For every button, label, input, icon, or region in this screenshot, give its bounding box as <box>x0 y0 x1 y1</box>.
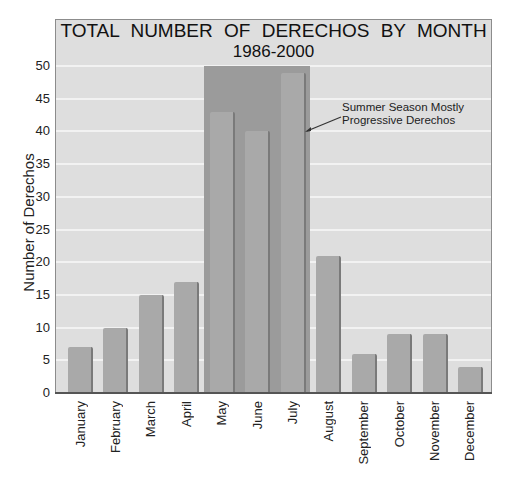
y-tick-label: 50 <box>20 58 50 73</box>
bar-february <box>103 328 128 393</box>
annotation-arrow-icon <box>305 115 345 135</box>
x-tick-label-july: July <box>285 401 300 424</box>
bar-march <box>139 295 164 393</box>
x-tick-label-june: June <box>250 401 265 429</box>
bar-september <box>352 354 377 393</box>
bar-july <box>281 73 306 393</box>
x-tick-label-january: January <box>73 401 88 447</box>
bar-december <box>458 367 483 393</box>
bar-august <box>316 256 341 393</box>
bar-may <box>210 112 235 393</box>
bar-october <box>387 334 412 393</box>
x-tick-label-august: August <box>321 401 336 441</box>
y-tick-label: 10 <box>20 320 50 335</box>
x-tick-label-october: October <box>392 401 407 447</box>
bar-june <box>245 131 270 393</box>
x-tick-label-april: April <box>179 401 194 427</box>
y-tick-label: 5 <box>20 352 50 367</box>
y-tick-label: 45 <box>20 91 50 106</box>
y-tick-label: 40 <box>20 123 50 138</box>
y-tick-label: 0 <box>20 385 50 400</box>
x-tick-label-november: November <box>427 401 442 461</box>
y-axis-label: Number of Derechos <box>20 143 37 303</box>
x-tick-label-february: February <box>108 401 123 453</box>
summer-annotation: Summer Season Mostly Progressive Derecho… <box>342 101 464 127</box>
chart-title: TOTAL NUMBER OF DERECHOS BY MONTH <box>55 20 492 42</box>
x-tick-label-september: September <box>356 401 371 465</box>
x-tick-label-december: December <box>462 401 477 461</box>
x-tick-label-may: May <box>214 401 229 426</box>
annotation-line-1: Summer Season Mostly <box>342 101 464 114</box>
x-axis-baseline <box>55 392 492 394</box>
chart-subtitle: 1986-2000 <box>55 42 492 62</box>
annotation-line-2: Progressive Derechos <box>342 114 464 127</box>
bar-november <box>423 334 448 393</box>
bar-january <box>68 347 93 393</box>
bar-april <box>174 282 199 393</box>
x-tick-label-march: March <box>143 401 158 437</box>
